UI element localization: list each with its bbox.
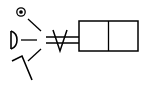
circle-dot-icon: [17, 8, 25, 16]
valve-body: [79, 21, 138, 51]
connector-line-top: [28, 19, 41, 31]
connector-line-bottom: [28, 49, 41, 61]
pushbutton-icon: [11, 31, 17, 49]
detent-v-icon: [53, 30, 67, 51]
valve-diagram: [0, 0, 147, 90]
